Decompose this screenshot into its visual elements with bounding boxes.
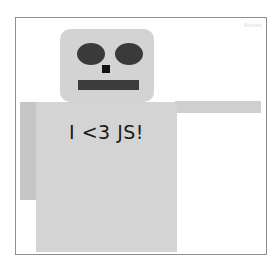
robot-left-eye-icon	[77, 43, 105, 65]
robot-left-arm	[20, 102, 36, 200]
robot-shirt-text: I <3 JS!	[36, 121, 177, 143]
robot-right-eye-icon	[115, 43, 143, 65]
robot-mouth-icon	[78, 80, 139, 90]
restart-button[interactable]: Restart	[244, 22, 262, 28]
robot-right-arm	[175, 101, 261, 113]
robot-nose-icon	[102, 65, 110, 73]
